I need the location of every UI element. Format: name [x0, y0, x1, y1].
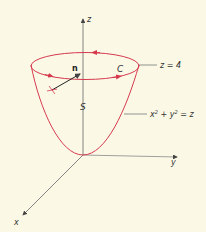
- eq-rhs: = z: [178, 110, 195, 119]
- paraboloid-diagram: z y x n C S z = 4 x2 + y2 = z: [0, 0, 206, 232]
- y-axis: [83, 155, 177, 157]
- curve-arrow-front-right: [112, 77, 119, 78]
- x-axis-label: x: [13, 218, 19, 227]
- curve-label: C: [117, 64, 124, 74]
- normal-label: n: [72, 64, 78, 73]
- surface-equation-label: x2 + y2 = z: [149, 109, 194, 119]
- y-axis-label: y: [170, 158, 176, 167]
- normal-base-mark: [47, 86, 57, 94]
- surface-label: S: [80, 102, 86, 112]
- z-axis-label: z: [86, 15, 92, 24]
- plane-label: z = 4: [159, 61, 181, 70]
- eq-plus: +: [158, 110, 170, 119]
- x-axis: [23, 155, 83, 215]
- normal-vector-arrow: [52, 74, 80, 90]
